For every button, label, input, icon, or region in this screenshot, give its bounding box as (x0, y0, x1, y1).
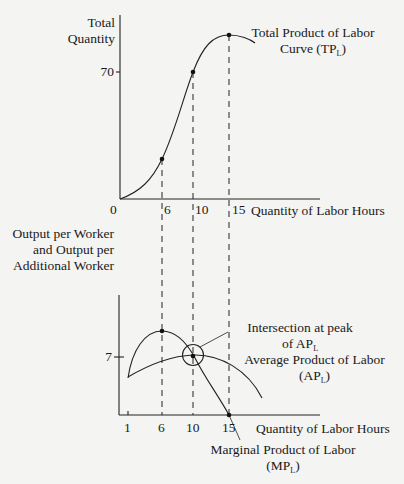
bottom-y-axis-label: Output per Worker and Output per Additio… (0, 226, 114, 274)
bottom-ylabel-line2: and Output per (0, 242, 114, 258)
ap-label-line1: Average Product of Labor (232, 352, 397, 368)
top-xtick-15: 15 (232, 202, 246, 218)
mp-zero-point (227, 413, 232, 418)
ap-label-text: (AP (299, 368, 321, 383)
tp-label-close: ) (342, 41, 347, 56)
tp-point-15 (227, 33, 232, 38)
mp-label-text: (MP (266, 458, 290, 473)
top-ylabel-line2: Quantity (40, 31, 115, 47)
top-ylabel-line1: Total (40, 15, 115, 31)
mp-label-line2: (MPL) (198, 458, 368, 474)
intersection-point (191, 354, 196, 359)
intersection-label-text: of AP (282, 336, 313, 351)
ap-label-line2: (APL) (232, 368, 397, 384)
bottom-xtick-10: 10 (186, 420, 200, 436)
mp-curve (128, 331, 229, 415)
bottom-xtick-15: 15 (222, 420, 236, 436)
bottom-x-axis-label: Quantity of Labor Hours (256, 421, 390, 437)
bottom-ylabel-line3: Additional Worker (0, 258, 114, 274)
mp-label-line1: Marginal Product of Labor (198, 442, 368, 458)
tp-label-line2: Curve (TPL) (238, 41, 388, 57)
mp-label-close: ) (295, 458, 300, 473)
intersection-leader (200, 332, 228, 347)
intersection-label-line2: of APL (225, 336, 375, 352)
top-points (160, 33, 232, 162)
tp-label-line1: Total Product of Labor (238, 25, 388, 41)
top-xtick-10: 10 (195, 202, 209, 218)
bottom-xtick-1: 1 (124, 420, 131, 436)
tp-curve (120, 35, 255, 199)
bottom-points (160, 329, 232, 418)
mp-peak-point (160, 329, 165, 334)
tp-curve-label: Total Product of Labor Curve (TPL) (238, 25, 388, 57)
tp-label-text: Curve (TP (280, 41, 337, 56)
bottom-xtick-6: 6 (158, 420, 165, 436)
bottom-ytick-label: 7 (90, 349, 112, 365)
top-xtick-0: 0 (110, 202, 117, 218)
bottom-ylabel-line1: Output per Worker (0, 226, 114, 242)
intersection-label: Intersection at peak of APL (225, 320, 375, 352)
mp-curve-label: Marginal Product of Labor (MPL) (198, 442, 368, 474)
top-x-axis-label: Quantity of Labor Hours (251, 203, 385, 219)
ap-label-close: ) (326, 368, 331, 383)
tp-point-10 (191, 70, 196, 75)
top-y-axis-label: Total Quantity (40, 15, 115, 47)
top-ytick-label: 70 (80, 64, 114, 80)
ap-curve-label: Average Product of Labor (APL) (232, 352, 397, 384)
tp-point-6 (160, 157, 165, 162)
intersection-label-line1: Intersection at peak (225, 320, 375, 336)
top-xtick-6: 6 (164, 202, 171, 218)
